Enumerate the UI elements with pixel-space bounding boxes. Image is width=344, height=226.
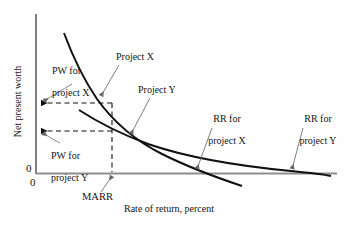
leader-marr xyxy=(101,176,112,192)
leader-project-y xyxy=(131,98,150,134)
annotation-project-y: Project Y xyxy=(138,84,176,95)
annotation-rr-project-y-line2: project Y xyxy=(299,135,336,146)
annotation-rr-project-y: RR for project Y xyxy=(283,102,343,157)
annotation-marr: MARR xyxy=(82,191,113,202)
annotation-rr-project-x: RR for project X xyxy=(192,102,252,157)
annotation-pw-project-y: PW for project Y xyxy=(41,139,88,194)
annotation-pw-project-x-line1: PW for xyxy=(52,65,81,76)
x-origin-tick: 0 xyxy=(30,176,36,188)
x-axis-label: Rate of return, percent xyxy=(124,203,214,214)
annotation-rr-project-x-line2: project X xyxy=(208,135,246,146)
annotation-project-x: Project X xyxy=(116,51,154,62)
annotation-pw-project-y-line2: project Y xyxy=(51,172,88,183)
y-origin-tick: 0 xyxy=(26,162,32,174)
net-present-worth-chart: Net present worth Rate of return, percen… xyxy=(0,0,344,226)
annotation-pw-project-x: PW for project X xyxy=(42,54,90,109)
annotation-pw-project-y-line1: PW for xyxy=(51,150,80,161)
y-axis-label: Net present worth xyxy=(12,47,23,157)
annotation-rr-project-y-line1: RR for xyxy=(304,113,332,124)
annotation-rr-project-x-line1: RR for xyxy=(213,113,241,124)
leader-project-x xyxy=(101,65,119,96)
annotation-pw-project-x-line2: project X xyxy=(52,87,90,98)
